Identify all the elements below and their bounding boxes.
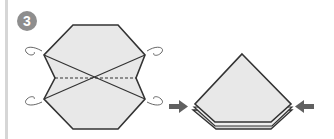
- fold-behind-arrow-icon: [147, 47, 163, 55]
- origami-diagram: [0, 0, 334, 139]
- fold-behind-arrow-icon: [25, 97, 42, 105]
- hexagon-folded-paper: [25, 25, 162, 129]
- pentagon-result: [193, 54, 292, 129]
- fold-behind-arrow-icon: [25, 47, 42, 55]
- push-arrow-left-icon: [169, 100, 188, 113]
- paper-shape: [195, 54, 291, 122]
- push-arrow-right-icon: [295, 100, 314, 113]
- fold-behind-arrow-icon: [147, 97, 163, 105]
